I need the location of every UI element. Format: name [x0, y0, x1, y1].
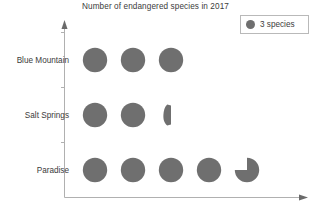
pictograph-symbol-full — [120, 102, 146, 128]
pictograph-symbol-partial — [158, 102, 184, 128]
pictograph-symbol-full — [120, 47, 146, 73]
category-label-salt-springs: Salt Springs — [25, 111, 69, 120]
pictograph-symbol-partial — [234, 157, 260, 183]
pictograph-symbol-full — [82, 47, 108, 73]
x-axis-arrowhead-icon — [299, 195, 308, 201]
y-axis-arrowhead-icon — [62, 20, 68, 29]
category-label-paradise: Paradise — [37, 166, 69, 175]
pictograph-symbol-full — [82, 157, 108, 183]
pictograph-symbol-full — [82, 102, 108, 128]
pictograph-chart: Number of endangered species in 2017 3 s… — [0, 0, 311, 218]
pictograph-symbol-full — [158, 47, 184, 73]
pictograph-symbol-full — [158, 157, 184, 183]
pictograph-row-salt-springs — [82, 102, 196, 128]
pictograph-symbol-full — [196, 157, 222, 183]
pictograph-row-paradise — [82, 157, 272, 183]
category-label-blue-mountain: Blue Mountain — [17, 56, 69, 65]
pictograph-symbol-full — [120, 157, 146, 183]
pictograph-row-blue-mountain — [82, 47, 196, 73]
